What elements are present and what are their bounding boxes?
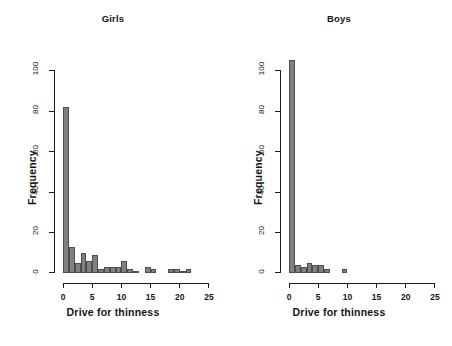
y-axis-tick-label: 60 (257, 140, 266, 160)
y-axis-line (54, 70, 55, 273)
x-axis-tick-label: 15 (136, 292, 166, 302)
x-axis-tick-label: 25 (194, 292, 224, 302)
histogram-bar (186, 269, 192, 273)
x-axis-tick (318, 283, 319, 288)
x-axis-tick (434, 283, 435, 288)
y-axis-tick (49, 192, 54, 193)
x-axis-tick-label: 25 (420, 292, 450, 302)
x-axis-tick-label: 10 (332, 292, 362, 302)
y-axis-tick-label: 80 (257, 99, 266, 119)
y-axis-tick-label: 100 (31, 59, 40, 79)
panel-title-boys: Boys (226, 13, 452, 24)
x-axis-tick (376, 283, 377, 288)
plot-area-girls (63, 60, 209, 273)
y-axis-tick-label: 80 (31, 99, 40, 119)
y-axis-tick (275, 192, 280, 193)
histogram-bar (289, 60, 295, 273)
x-axis-tick (121, 283, 122, 288)
x-axis-title-girls: Drive for thinness (0, 306, 226, 318)
x-axis-tick (92, 283, 93, 288)
y-axis-line (280, 70, 281, 273)
plot-area-boys (289, 60, 435, 273)
y-axis-tick (275, 111, 280, 112)
y-axis-tick (275, 272, 280, 273)
x-axis-tick (347, 283, 348, 288)
bars-boys (289, 60, 435, 273)
x-axis-tick (289, 283, 290, 288)
x-axis-tick-label: 10 (106, 292, 136, 302)
y-axis-tick (49, 272, 54, 273)
x-axis-line (63, 283, 209, 284)
histogram-bar (324, 269, 330, 273)
x-axis-tick (208, 283, 209, 288)
y-axis-tick-label: 40 (257, 180, 266, 200)
y-axis-tick-label: 20 (257, 221, 266, 241)
histogram-bar (342, 269, 348, 273)
y-axis-tick (275, 232, 280, 233)
y-axis-tick (275, 151, 280, 152)
x-axis-tick-label: 5 (77, 292, 107, 302)
panel-title-girls: Girls (0, 13, 226, 24)
y-axis-tick-label: 0 (31, 262, 40, 282)
x-axis-tick-label: 0 (48, 292, 78, 302)
x-axis-tick (179, 283, 180, 288)
histogram-figure: Girls Frequency Drive for thinness 05101… (0, 0, 452, 346)
y-axis-tick (49, 151, 54, 152)
y-axis-tick-label: 20 (31, 221, 40, 241)
y-axis-tick (49, 70, 54, 71)
x-axis-tick-label: 5 (303, 292, 333, 302)
panel-boys: Boys Frequency Drive for thinness 051015… (226, 0, 452, 346)
x-axis-tick (63, 283, 64, 288)
y-axis-tick-label: 0 (257, 262, 266, 282)
x-axis-tick-label: 15 (362, 292, 392, 302)
x-axis-tick-label: 20 (165, 292, 195, 302)
x-axis-tick-label: 20 (391, 292, 421, 302)
y-axis-tick (49, 232, 54, 233)
x-axis-line (289, 283, 435, 284)
bars-girls (63, 60, 209, 273)
x-axis-title-boys: Drive for thinness (226, 306, 452, 318)
histogram-bar (133, 271, 139, 273)
y-axis-tick-label: 100 (257, 59, 266, 79)
x-axis-tick-label: 0 (274, 292, 304, 302)
y-axis-tick-label: 40 (31, 180, 40, 200)
x-axis-tick (150, 283, 151, 288)
panel-girls: Girls Frequency Drive for thinness 05101… (0, 0, 226, 346)
histogram-bar (151, 269, 157, 273)
y-axis-tick (275, 70, 280, 71)
y-axis-tick-label: 60 (31, 140, 40, 160)
y-axis-tick (49, 111, 54, 112)
x-axis-tick (405, 283, 406, 288)
